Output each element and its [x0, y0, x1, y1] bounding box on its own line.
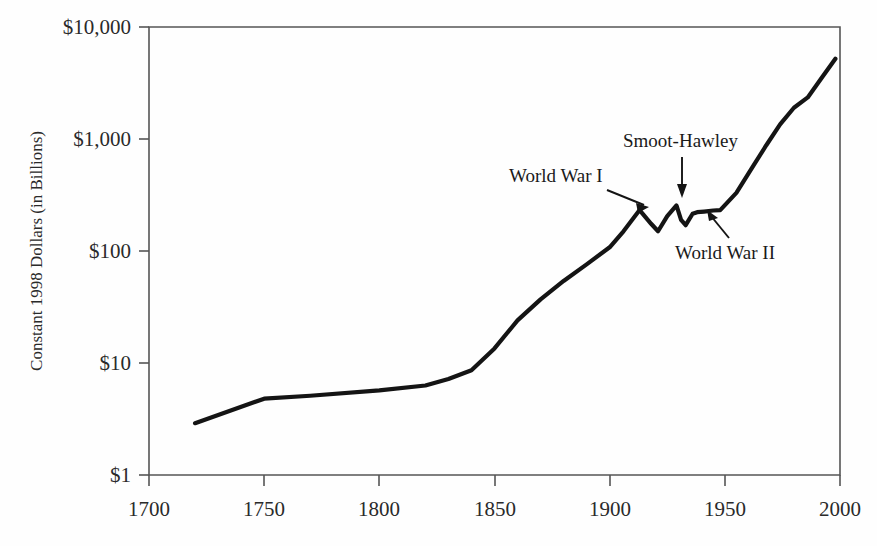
annotation-arrowhead-smoot-hawley — [677, 184, 687, 198]
annotation-label-world-war-ii: World War II — [675, 242, 775, 263]
x-tick-label-1700: 1700 — [128, 497, 170, 521]
x-axis-ticks — [149, 475, 840, 486]
data-line-series-1 — [195, 59, 835, 423]
y-tick-label-1000: $1,000 — [73, 127, 131, 151]
x-tick-label-1850: 1850 — [474, 497, 516, 521]
x-tick-label-1800: 1800 — [358, 497, 400, 521]
x-tick-label-2000: 2000 — [819, 497, 861, 521]
annotation-arrow-world-war-i — [607, 190, 644, 205]
annotation-world-war-i: World War I — [509, 165, 649, 213]
y-tick-label-1: $1 — [110, 463, 131, 487]
x-tick-label-1900: 1900 — [589, 497, 631, 521]
chart-canvas: $10,000 $1,000 $100 $10 $1 1700 1750 180… — [0, 0, 877, 546]
y-axis-title: Constant 1998 Dollars (in Billions) — [27, 131, 46, 371]
y-axis-ticks — [139, 27, 149, 475]
x-axis-tick-labels: 1700 1750 1800 1850 1900 1950 2000 — [128, 497, 861, 521]
chart-figure: $10,000 $1,000 $100 $10 $1 1700 1750 180… — [0, 0, 877, 546]
y-tick-label-10000: $10,000 — [63, 15, 131, 39]
annotation-smoot-hawley: Smoot-Hawley — [623, 130, 739, 198]
y-tick-label-100: $100 — [89, 239, 131, 263]
annotation-label-smoot-hawley: Smoot-Hawley — [623, 130, 739, 151]
x-tick-label-1750: 1750 — [243, 497, 285, 521]
annotation-label-world-war-i: World War I — [509, 165, 603, 186]
x-tick-label-1950: 1950 — [704, 497, 746, 521]
y-axis-tick-labels: $10,000 $1,000 $100 $10 $1 — [63, 15, 131, 487]
y-tick-label-10: $10 — [100, 351, 132, 375]
